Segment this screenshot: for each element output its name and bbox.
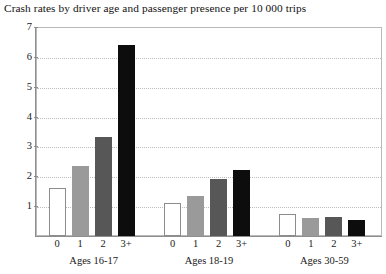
bar [164,203,181,236]
bar [325,217,342,236]
x-axis-group-labels: Ages 16-17Ages 18-19Ages 30-59 [36,255,382,271]
bar [49,188,66,236]
y-tick-label: 7 [6,22,32,32]
bar [302,218,319,236]
y-tick-label: 3 [6,141,32,151]
x-axis-line [35,236,382,237]
x-axis-tick-labels: 0123+0123+0123+ [36,238,382,254]
group-label: Ages 16-17 [36,255,151,267]
bar [210,179,227,236]
x-tick-label: 3+ [342,238,371,250]
bar [233,170,250,236]
bar [187,196,204,236]
bar [348,220,365,236]
y-axis-tick-labels: 1234567 [0,27,32,237]
x-tick-label: 3+ [227,238,256,250]
y-tick-label: 2 [6,171,32,181]
bar [95,137,112,236]
bars-layer [36,27,382,236]
x-tick-label: 3+ [112,238,141,250]
bar [118,45,135,236]
chart-root: Crash rates by driver age and passenger … [0,0,386,274]
y-tick-label: 1 [6,201,32,211]
chart-title: Crash rates by driver age and passenger … [4,2,382,15]
y-tick-label: 5 [6,82,32,92]
bar [279,214,296,236]
y-tick-label: 4 [6,112,32,122]
y-tick-label: 6 [6,52,32,62]
bar [72,166,89,236]
group-label: Ages 18-19 [151,255,266,267]
group-label: Ages 30-59 [267,255,382,267]
